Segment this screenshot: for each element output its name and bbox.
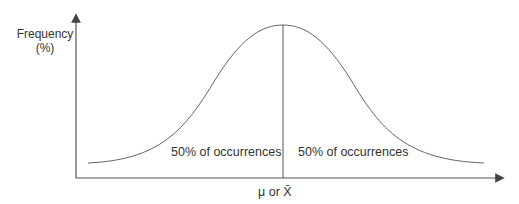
y-axis-label-line2: (%) (16, 41, 74, 55)
left-half-label: 50% of occurrences (171, 145, 281, 159)
x-axis-label: μ or X̄ (258, 185, 292, 199)
right-half-label: 50% of occurrences (298, 145, 408, 159)
bell-curve (88, 25, 484, 163)
normal-curve-diagram (0, 0, 519, 204)
y-axis-label-line1: Frequency (16, 27, 74, 41)
y-axis-label: Frequency (%) (16, 27, 74, 55)
